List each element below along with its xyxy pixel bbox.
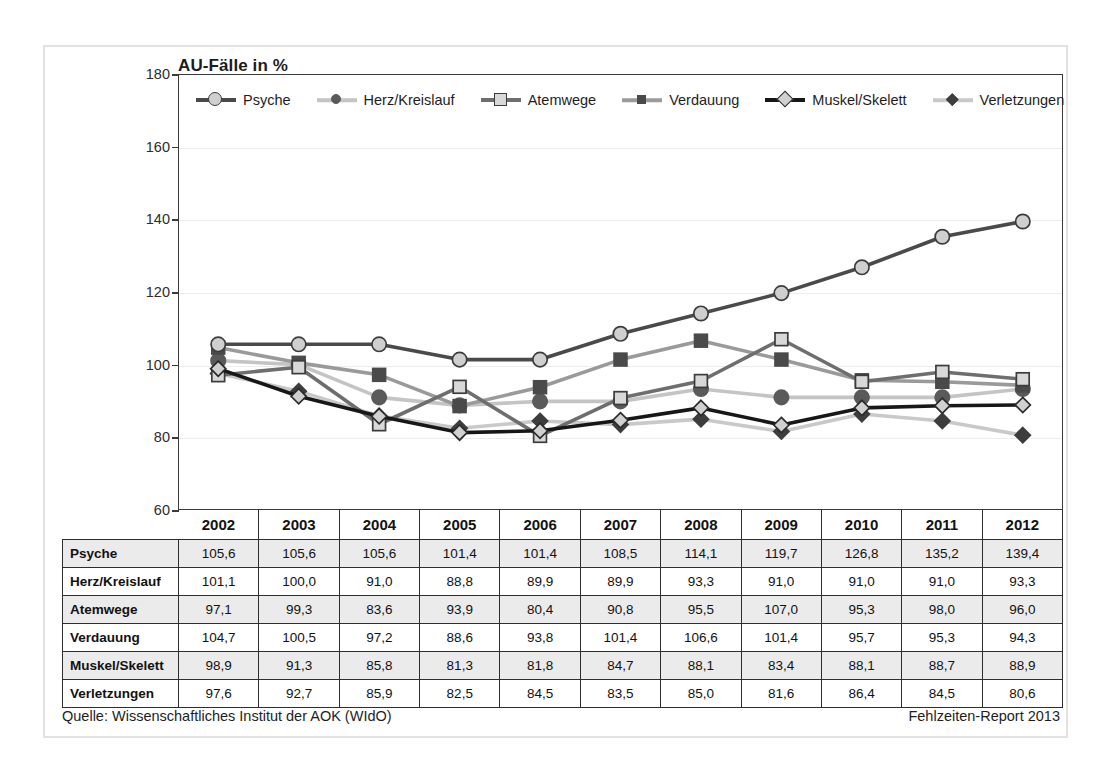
table-cell: 94,3 — [982, 624, 1062, 652]
data-point-marker — [372, 337, 386, 351]
chart-series-canvas — [178, 74, 1063, 510]
data-point-marker — [534, 381, 547, 394]
table-cell: 93,3 — [982, 568, 1062, 596]
data-point-marker — [1016, 373, 1029, 386]
table-cell: 100,0 — [259, 568, 339, 596]
legend-item-psyche[interactable]: Psyche — [196, 92, 291, 108]
data-point-marker — [613, 327, 627, 341]
y-tick-mark — [172, 510, 179, 512]
table-column-header: 2004 — [339, 510, 419, 540]
data-point-marker — [1015, 428, 1030, 443]
legend-item-herz-kreislauf[interactable]: Herz/Kreislauf — [317, 92, 455, 108]
y-tick-mark — [172, 292, 179, 294]
table-column-header: 2003 — [259, 510, 339, 540]
series-psyche — [211, 214, 1030, 366]
data-point-marker — [774, 390, 788, 404]
table-row: Verletzungen97,692,785,982,584,583,585,0… — [63, 680, 1063, 708]
legend-marker-icon — [933, 92, 973, 108]
legend-item-verletzungen[interactable]: Verletzungen — [933, 92, 1065, 108]
y-tick-mark — [172, 219, 179, 221]
table-cell: 96,0 — [982, 596, 1062, 624]
table-cell: 95,7 — [821, 624, 901, 652]
table-row-label: Muskel/Skelett — [63, 652, 179, 680]
legend-marker-icon — [765, 92, 805, 108]
data-point-marker — [1016, 214, 1030, 228]
data-point-marker — [775, 353, 788, 366]
page-title: AU-Fälle in % — [178, 56, 288, 76]
table-corner-cell — [63, 510, 179, 540]
data-point-marker — [855, 260, 869, 274]
table-cell: 97,2 — [339, 624, 419, 652]
table-column-header: 2011 — [902, 510, 982, 540]
table-cell: 95,5 — [661, 596, 741, 624]
table-cell: 98,9 — [179, 652, 259, 680]
table-cell: 97,6 — [179, 680, 259, 708]
table-cell: 93,9 — [420, 596, 500, 624]
table-cell: 91,0 — [339, 568, 419, 596]
data-point-marker — [1015, 397, 1030, 412]
table-cell: 83,4 — [741, 652, 821, 680]
table-column-header: 2012 — [982, 510, 1062, 540]
table-cell: 93,3 — [661, 568, 741, 596]
table-cell: 91,0 — [902, 568, 982, 596]
legend-label: Muskel/Skelett — [812, 92, 906, 108]
y-tick-label: 100 — [128, 357, 170, 373]
table-cell: 100,5 — [259, 624, 339, 652]
data-point-marker — [533, 352, 547, 366]
table-header: 2002200320042005200620072008200920102011… — [63, 510, 1063, 540]
table-cell: 80,4 — [500, 596, 580, 624]
table-row-label: Atemwege — [63, 596, 179, 624]
legend-item-atemwege[interactable]: Atemwege — [481, 92, 597, 108]
data-point-marker — [453, 400, 466, 413]
table-cell: 91,0 — [821, 568, 901, 596]
table-cell: 90,8 — [580, 596, 660, 624]
table-cell: 95,3 — [902, 624, 982, 652]
legend-marker-icon — [317, 92, 357, 108]
table-cell: 104,7 — [179, 624, 259, 652]
screenshot-root: AU-Fälle in % 1801601401201008060 Psyche… — [0, 0, 1108, 763]
legend-label: Verdauung — [669, 92, 739, 108]
table-cell: 106,6 — [661, 624, 741, 652]
data-point-marker — [775, 333, 788, 346]
table-cell: 88,1 — [821, 652, 901, 680]
table-cell: 83,5 — [580, 680, 660, 708]
chart-legend: PsycheHerz/KreislaufAtemwegeVerdauungMus… — [196, 88, 1064, 112]
data-point-marker — [774, 286, 788, 300]
legend-marker-icon — [622, 92, 662, 108]
y-tick-label: 180 — [128, 66, 170, 82]
table-row: Atemwege97,199,383,693,980,490,895,5107,… — [63, 596, 1063, 624]
data-point-marker — [936, 366, 949, 379]
table-column-header: 2008 — [661, 510, 741, 540]
data-point-marker — [935, 413, 950, 428]
table-column-header: 2009 — [741, 510, 821, 540]
data-point-marker — [614, 392, 627, 405]
table-cell: 88,6 — [420, 624, 500, 652]
table-cell: 98,0 — [902, 596, 982, 624]
table-cell: 91,3 — [259, 652, 339, 680]
legend-marker-icon — [196, 92, 236, 108]
y-tick-mark — [172, 365, 179, 367]
table-cell: 84,5 — [902, 680, 982, 708]
legend-item-muskel-skelett[interactable]: Muskel/Skelett — [765, 92, 906, 108]
y-tick-label: 120 — [128, 284, 170, 300]
table-cell: 84,5 — [500, 680, 580, 708]
table-cell: 119,7 — [741, 540, 821, 568]
data-point-marker — [292, 361, 305, 374]
data-point-marker — [855, 375, 868, 388]
table-cell: 86,4 — [821, 680, 901, 708]
data-point-marker — [291, 337, 305, 351]
data-point-marker — [694, 306, 708, 320]
table-cell: 81,6 — [741, 680, 821, 708]
table-cell: 101,4 — [500, 540, 580, 568]
data-point-marker — [211, 337, 225, 351]
data-point-marker — [935, 230, 949, 244]
table-cell: 93,8 — [500, 624, 580, 652]
data-point-marker — [372, 390, 386, 404]
table-cell: 85,0 — [661, 680, 741, 708]
y-tick-mark — [172, 147, 179, 149]
legend-item-verdauung[interactable]: Verdauung — [622, 92, 739, 108]
table-cell: 139,4 — [982, 540, 1062, 568]
table-column-header: 2002 — [179, 510, 259, 540]
y-tick-mark — [172, 74, 179, 76]
table-cell: 101,4 — [580, 624, 660, 652]
